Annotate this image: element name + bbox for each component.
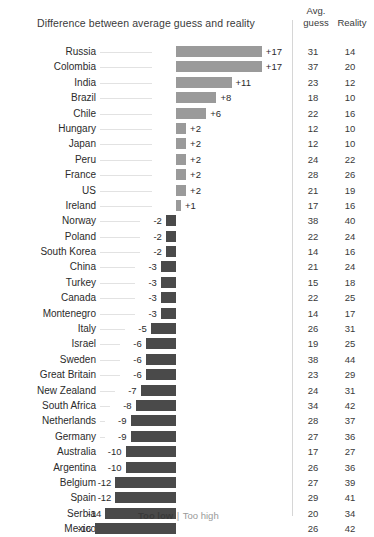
bar <box>176 46 262 57</box>
avg-guess-value: 27 <box>296 476 330 489</box>
bar <box>126 462 177 473</box>
bar <box>146 354 176 365</box>
avg-guess-value: 22 <box>296 107 330 120</box>
avg-guess-value: 26 <box>296 461 330 474</box>
bar <box>176 123 186 134</box>
table-row: Italy-52631 <box>0 321 374 336</box>
leader-line <box>100 283 135 284</box>
table-row: Mexico-162642 <box>0 521 374 536</box>
bar <box>166 215 176 226</box>
leader-line <box>100 206 152 207</box>
country-label: Colombia <box>0 60 96 73</box>
bar-cell: -7 <box>100 383 292 398</box>
bar <box>131 431 176 442</box>
bar-value-label: +2 <box>190 153 201 166</box>
table-row: Norway-23840 <box>0 213 374 228</box>
country-label: Italy <box>0 322 96 335</box>
reality-value: 44 <box>330 353 370 366</box>
reality-value: 36 <box>330 430 370 443</box>
table-row: New Zealand-72431 <box>0 383 374 398</box>
bar-value-label: +2 <box>190 137 201 150</box>
bar-value-label: -16 <box>77 522 91 535</box>
bar <box>136 400 176 411</box>
reality-value: 31 <box>330 384 370 397</box>
reality-value: 24 <box>330 230 370 243</box>
country-label: Japan <box>0 137 96 150</box>
leader-line <box>100 375 120 376</box>
bar <box>141 385 176 396</box>
table-row: Australia-101727 <box>0 444 374 459</box>
bar-value-label: -9 <box>118 430 126 443</box>
bar-cell: +2 <box>100 152 292 167</box>
table-row: Turkey-31518 <box>0 275 374 290</box>
reality-value: 26 <box>330 168 370 181</box>
leader-line <box>100 175 152 176</box>
reality-value: 36 <box>330 461 370 474</box>
reality-value: 25 <box>330 291 370 304</box>
bar <box>95 523 176 534</box>
country-label: South Africa <box>0 399 96 412</box>
reality-value: 10 <box>330 137 370 150</box>
bar-cell: -9 <box>100 429 292 444</box>
country-label: India <box>0 76 96 89</box>
bar <box>115 492 176 503</box>
country-label: Poland <box>0 230 96 243</box>
bar-cell: +2 <box>100 167 292 182</box>
bar-value-label: -6 <box>133 337 141 350</box>
bar-value-label: -3 <box>148 260 156 273</box>
bar-cell: -9 <box>100 413 292 428</box>
avg-guess-value: 28 <box>296 414 330 427</box>
avg-guess-value: 18 <box>296 91 330 104</box>
table-row: Peru+22422 <box>0 152 374 167</box>
table-row: South Africa-83442 <box>0 398 374 413</box>
bar-cell: -5 <box>100 321 292 336</box>
bar-cell: -6 <box>100 367 292 382</box>
avg-guess-value: 28 <box>296 168 330 181</box>
legend-too-high: Too high <box>183 510 219 521</box>
leader-line <box>100 237 140 238</box>
reality-value: 17 <box>330 307 370 320</box>
table-row: Japan+21210 <box>0 136 374 151</box>
bar-value-label: +17 <box>266 60 282 73</box>
table-row: India+112312 <box>0 75 374 90</box>
country-label: Brazil <box>0 91 96 104</box>
bar <box>161 292 176 303</box>
bar-value-label: +6 <box>210 107 221 120</box>
bar-value-label: -7 <box>128 384 136 397</box>
bar <box>176 108 206 119</box>
reality-value: 20 <box>330 60 370 73</box>
legend-too-low: Too low <box>138 510 173 521</box>
table-row: Hungary+21210 <box>0 121 374 136</box>
avg-guess-value: 21 <box>296 260 330 273</box>
country-label: US <box>0 184 96 197</box>
reality-value: 29 <box>330 368 370 381</box>
bar-value-label: -12 <box>98 476 112 489</box>
bar-cell: +2 <box>100 136 292 151</box>
table-row: Sweden-63844 <box>0 352 374 367</box>
bar-value-label: -2 <box>153 214 161 227</box>
bar-value-label: +8 <box>220 91 231 104</box>
table-row: South Korea-21416 <box>0 244 374 259</box>
avg-guess-value: 17 <box>296 445 330 458</box>
chart-rows: Russia+173114Colombia+173720India+112312… <box>0 44 374 537</box>
bar <box>161 261 176 272</box>
bar-value-label: +17 <box>266 45 282 58</box>
bar-cell: +1 <box>100 198 292 213</box>
leader-line <box>100 114 152 115</box>
bar-value-label: -6 <box>133 353 141 366</box>
bar-value-label: -8 <box>123 399 131 412</box>
country-label: Sweden <box>0 353 96 366</box>
bar-value-label: -10 <box>108 445 122 458</box>
avg-guess-value: 19 <box>296 337 330 350</box>
bar-cell: +17 <box>100 44 292 59</box>
reality-value: 34 <box>330 507 370 520</box>
country-label: Spain <box>0 491 96 504</box>
bar <box>146 369 176 380</box>
table-row: Montenegro-31417 <box>0 306 374 321</box>
leader-line <box>100 421 105 422</box>
leader-line <box>100 52 152 53</box>
bar <box>131 415 176 426</box>
bar-value-label: +11 <box>236 76 251 89</box>
bar <box>176 169 186 180</box>
country-label: Canada <box>0 291 96 304</box>
